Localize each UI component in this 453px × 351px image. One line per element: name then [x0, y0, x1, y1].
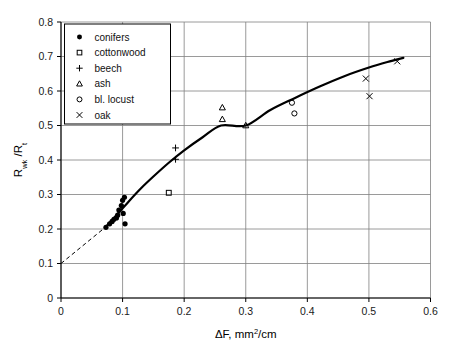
extrapolation-line — [61, 227, 105, 263]
scatter-plot: 00.10.20.30.40.50.60.70.800.10.20.30.40.… — [0, 0, 453, 351]
data-point-beech — [172, 145, 179, 152]
x-axis-title: ΔF, mm2/cm — [215, 327, 277, 341]
y-axis-title: Rwk /Rt — [12, 142, 29, 177]
data-point-conifers — [119, 203, 124, 208]
data-point-oak — [367, 93, 373, 99]
data-point-beech — [172, 156, 179, 163]
data-point-conifers — [122, 195, 127, 200]
y-tick-label: 0.5 — [38, 119, 53, 131]
legend-label-conifers: conifers — [95, 32, 130, 43]
x-tick-label: 0.5 — [362, 305, 377, 317]
x-tick-label: 0.3 — [238, 305, 253, 317]
data-point-conifers — [121, 211, 126, 216]
x-tick-label: 0.4 — [300, 305, 315, 317]
legend-label-bl-locust: bl. locust — [95, 94, 135, 105]
data-point-conifers — [116, 207, 121, 212]
data-point-ash — [219, 116, 225, 121]
data-point-conifers — [115, 213, 120, 218]
x-tick-label: 0.1 — [115, 305, 130, 317]
data-point-oak — [363, 76, 369, 82]
y-tick-label: 0.3 — [38, 188, 53, 200]
legend-label-beech: beech — [95, 63, 122, 74]
y-tick-label: 0.7 — [38, 50, 53, 62]
legend-label-oak: oak — [95, 110, 112, 121]
x-tick-label: 0.6 — [423, 305, 438, 317]
y-tick-label: 0.2 — [38, 223, 53, 235]
data-point-bl-locust — [289, 100, 294, 105]
y-tick-label: 0.8 — [38, 16, 53, 28]
data-point-bl-locust — [292, 111, 297, 116]
legend-label-cottonwood: cottonwood — [95, 47, 146, 58]
y-tick-label: 0.1 — [38, 257, 53, 269]
chart-figure: 00.10.20.30.40.50.60.70.800.10.20.30.40.… — [0, 0, 453, 351]
y-tick-label: 0.6 — [38, 85, 53, 97]
legend-label-ash: ash — [95, 78, 111, 89]
data-point-conifers — [122, 221, 127, 226]
data-point-ash — [219, 104, 225, 109]
x-tick-label: 0 — [58, 305, 64, 317]
legend-marker-filled-circle — [77, 35, 82, 40]
x-tick-label: 0.2 — [177, 305, 192, 317]
y-tick-label: 0.4 — [38, 154, 53, 166]
y-tick-label: 0 — [47, 292, 53, 304]
